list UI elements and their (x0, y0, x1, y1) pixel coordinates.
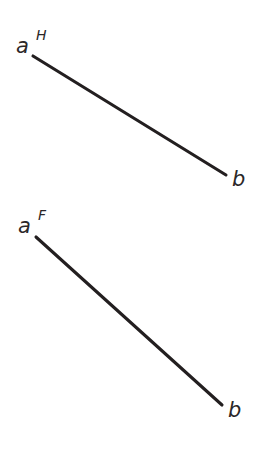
view-superscript-f: F (38, 207, 47, 223)
point-label-b-frontal: b (228, 398, 241, 422)
geometry-figure: a H b a F b (0, 0, 268, 449)
view-superscript-h: H (36, 27, 47, 43)
point-label-a-frontal: a (18, 214, 31, 238)
figure-background (0, 0, 268, 449)
point-label-b-horizontal: b (232, 167, 245, 191)
point-label-a-horizontal: a (16, 34, 29, 58)
